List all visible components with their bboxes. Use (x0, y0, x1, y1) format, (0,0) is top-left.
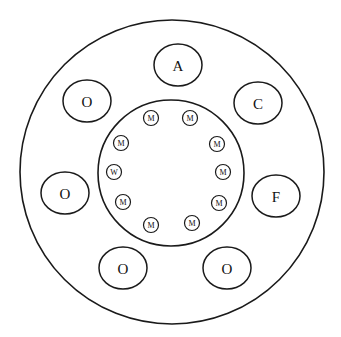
inner-node-label: M (119, 198, 126, 207)
inner-node-label: M (188, 219, 195, 228)
inner-node-label: M (186, 114, 193, 123)
inner-node-label: M (147, 221, 154, 230)
outer-node-label: A (173, 58, 184, 74)
inner-node-m: M (212, 196, 227, 211)
inner-node-group: MMMMMMMMWM (107, 111, 231, 233)
outer-node-label: O (60, 186, 71, 202)
outer-node-f: F (252, 175, 300, 217)
outer-node-label: F (272, 189, 280, 205)
inner-node-label: M (213, 140, 220, 149)
inner-node-m: M (144, 111, 159, 126)
inner-node-m: M (116, 195, 131, 210)
inner-node-label: M (215, 199, 222, 208)
outer-node-label: O (222, 261, 233, 277)
concentric-circle-diagram: ACFOOOO MMMMMMMMWM (0, 0, 341, 337)
inner-node-m: M (144, 218, 159, 233)
inner-node-m: M (210, 137, 225, 152)
inner-node-w: W (107, 165, 122, 180)
outer-node-label: O (118, 261, 129, 277)
outer-node-o: O (99, 247, 147, 289)
outer-node-group: ACFOOOO (41, 44, 300, 289)
inner-node-m: M (185, 216, 200, 231)
outer-node-o: O (41, 172, 89, 214)
outer-node-a: A (154, 44, 202, 86)
inner-node-m: M (114, 136, 129, 151)
outer-node-o: O (63, 80, 111, 122)
diagram-canvas: ACFOOOO MMMMMMMMWM (0, 0, 341, 337)
inner-node-m: M (216, 165, 231, 180)
inner-node-label: W (110, 168, 118, 177)
outer-node-c: C (234, 82, 282, 124)
outer-node-label: O (82, 94, 93, 110)
inner-node-label: M (117, 139, 124, 148)
inner-node-label: M (219, 168, 226, 177)
outer-node-label: C (253, 96, 263, 112)
inner-node-label: M (147, 114, 154, 123)
inner-node-m: M (183, 111, 198, 126)
outer-node-o: O (203, 247, 251, 289)
